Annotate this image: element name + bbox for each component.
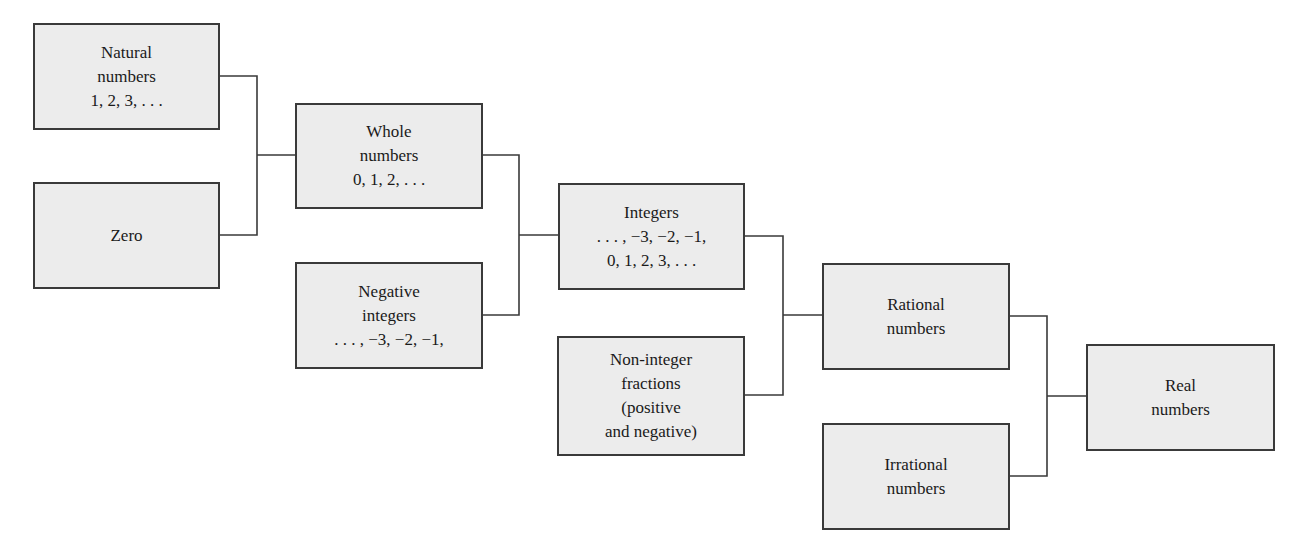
connector-integers-noninteger-rational — [744, 236, 822, 395]
node-whole-numbers: Whole numbers 0, 1, 2, . . . — [295, 103, 483, 209]
node-label: Negative — [358, 280, 419, 304]
node-label: numbers — [1151, 398, 1210, 422]
node-label: fractions — [621, 372, 680, 396]
node-label: Rational — [887, 293, 945, 317]
node-negative-integers: Negative integers . . . , −3, −2, −1, — [295, 262, 483, 369]
node-label: numbers — [97, 65, 156, 89]
node-label: Non-integer — [610, 348, 692, 372]
node-label: Irrational — [884, 453, 947, 477]
node-label: Integers — [624, 201, 679, 225]
node-label: and negative) — [605, 420, 697, 444]
node-label: Zero — [110, 224, 142, 248]
node-label: (positive — [621, 396, 681, 420]
node-label: 0, 1, 2, 3, . . . — [607, 249, 696, 273]
node-label: Natural — [101, 41, 152, 65]
node-label: 1, 2, 3, . . . — [90, 89, 162, 113]
node-label: integers — [362, 304, 416, 328]
node-label: numbers — [887, 317, 946, 341]
node-non-integer-fractions: Non-integer fractions (positive and nega… — [557, 336, 745, 456]
node-label: numbers — [887, 477, 946, 501]
node-rational-numbers: Rational numbers — [822, 263, 1010, 370]
node-label: . . . , −3, −2, −1, — [334, 328, 444, 352]
connector-whole-negative-integers — [482, 155, 558, 315]
node-zero: Zero — [33, 182, 220, 289]
node-label: numbers — [360, 144, 419, 168]
node-label: 0, 1, 2, . . . — [353, 168, 425, 192]
node-natural-numbers: Natural numbers 1, 2, 3, . . . — [33, 23, 220, 130]
node-irrational-numbers: Irrational numbers — [822, 423, 1010, 530]
node-real-numbers: Real numbers — [1086, 344, 1275, 451]
node-label: Real — [1165, 374, 1196, 398]
node-label: Whole — [366, 120, 411, 144]
connector-rational-irrational-real — [1009, 316, 1086, 476]
connector-natural-zero-whole — [219, 76, 295, 235]
node-label: . . . , −3, −2, −1, — [597, 225, 707, 249]
node-integers: Integers . . . , −3, −2, −1, 0, 1, 2, 3,… — [558, 183, 745, 290]
